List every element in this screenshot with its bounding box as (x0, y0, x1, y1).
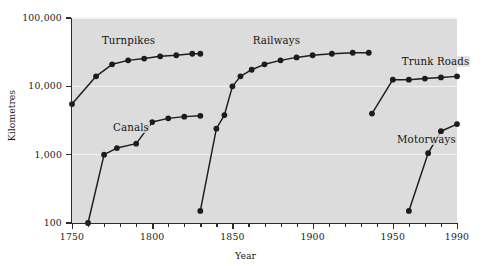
data-point (157, 53, 163, 59)
x-tick-minor-1840 (216, 223, 217, 227)
data-point (101, 152, 107, 158)
y-axis-title: Kilometres (6, 66, 17, 166)
x-tick-1950 (393, 223, 394, 229)
x-tick-minor-1770 (104, 223, 105, 227)
x-tick-minor-1790 (136, 223, 137, 227)
series-line (372, 76, 457, 113)
data-point (366, 50, 372, 56)
data-point (422, 76, 428, 82)
x-tick-label-1750: 1750 (42, 231, 102, 242)
data-point (109, 61, 115, 67)
data-point (249, 67, 255, 73)
x-tick-minor-1970 (425, 223, 426, 227)
series-label-turnpikes: Turnpikes (101, 35, 156, 46)
x-tick-minor-1760 (88, 223, 89, 227)
data-point (197, 113, 203, 119)
series-label-motorways: Motorways (396, 134, 457, 145)
data-point (294, 55, 300, 61)
data-point (310, 52, 316, 58)
series-turnpikes (69, 51, 203, 107)
data-point (181, 114, 187, 120)
data-point (197, 51, 203, 57)
data-point (454, 73, 460, 79)
data-point (238, 73, 244, 79)
series-label-trunk-roads: Trunk Roads (401, 56, 470, 67)
series-line (72, 54, 200, 104)
x-tick-minor-1890 (297, 223, 298, 227)
x-tick-label-1900: 1900 (283, 231, 343, 242)
x-tick-minor-1920 (345, 223, 346, 227)
series-canvas (72, 18, 457, 223)
x-tick-1990 (457, 223, 458, 229)
x-tick-minor-1820 (184, 223, 185, 227)
x-tick-label-1950: 1950 (363, 231, 423, 242)
chart-root: TurnpikesCanalsRailwaysTrunk RoadsMotorw… (0, 0, 491, 266)
x-tick-minor-1910 (329, 223, 330, 227)
data-point (141, 56, 147, 62)
series-railways (197, 50, 371, 214)
data-point (262, 61, 268, 67)
data-point (213, 126, 219, 132)
series-label-canals: Canals (112, 122, 150, 133)
x-tick-minor-1860 (248, 223, 249, 227)
x-tick-1850 (232, 223, 233, 229)
data-point (438, 75, 444, 81)
data-point (454, 121, 460, 127)
x-tick-label-1800: 1800 (122, 231, 182, 242)
data-point (149, 119, 155, 125)
data-point (93, 73, 99, 79)
x-tick-minor-1880 (281, 223, 282, 227)
data-point (425, 150, 431, 156)
data-point (133, 141, 139, 147)
y-tick-label-100000: 100,000 (2, 12, 62, 23)
x-tick-minor-1830 (200, 223, 201, 227)
data-point (406, 208, 412, 214)
data-point (406, 77, 412, 83)
x-tick-minor-1960 (409, 223, 410, 227)
data-point (197, 208, 203, 214)
y-tick-10000 (66, 86, 71, 87)
x-tick-label-1850: 1850 (202, 231, 262, 242)
data-point (350, 50, 356, 56)
data-point (165, 115, 171, 121)
data-point (125, 57, 131, 63)
x-axis-title: Year (0, 250, 491, 261)
data-point (278, 57, 284, 63)
x-tick-minor-1930 (361, 223, 362, 227)
y-axis-line (71, 18, 72, 224)
data-point (369, 111, 375, 117)
x-tick-minor-1940 (377, 223, 378, 227)
series-trunk-roads (369, 73, 460, 116)
data-point (230, 83, 236, 89)
x-tick-minor-1810 (168, 223, 169, 227)
x-tick-minor-1870 (265, 223, 266, 227)
data-point (329, 51, 335, 57)
x-tick-1800 (152, 223, 153, 229)
x-tick-label-1990: 1990 (427, 231, 487, 242)
x-tick-1900 (313, 223, 314, 229)
plot-area: TurnpikesCanalsRailwaysTrunk RoadsMotorw… (72, 18, 457, 223)
x-tick-minor-1780 (120, 223, 121, 227)
y-tick-100000 (66, 17, 71, 18)
data-point (173, 52, 179, 58)
y-tick-1000 (66, 154, 71, 155)
data-point (222, 112, 228, 118)
data-point (114, 145, 120, 151)
x-tick-1750 (72, 223, 73, 229)
x-tick-minor-1980 (441, 223, 442, 227)
y-tick-100 (66, 222, 71, 223)
series-label-railways: Railways (252, 35, 301, 46)
y-tick-label-100: 100 (2, 217, 62, 228)
series-line (200, 53, 368, 211)
data-point (189, 51, 195, 57)
data-point (390, 77, 396, 83)
